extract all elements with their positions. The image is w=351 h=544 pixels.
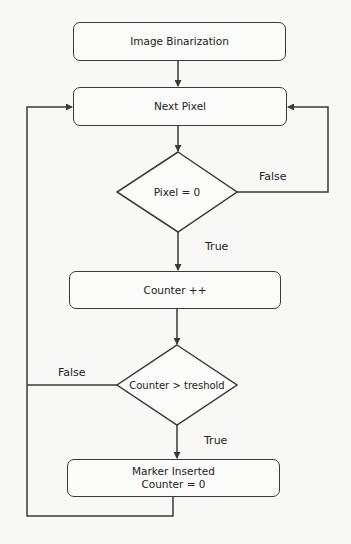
edge-label-pixel-false: False	[259, 170, 287, 183]
node-image-binarization: Image Binarization	[73, 22, 286, 61]
edge-label-pixel-true: True	[205, 240, 228, 253]
marker-line-1: Marker Inserted	[132, 465, 215, 478]
node-marker-inserted: Marker Inserted Counter = 0	[67, 459, 280, 497]
node-threshold-check-label: Counter > treshold	[117, 375, 237, 395]
edge-label-threshold-false: False	[58, 366, 86, 379]
node-pixel-check-label: Pixel = 0	[117, 182, 237, 202]
pixel-check-text: Pixel = 0	[154, 186, 200, 198]
pixel-false-text: False	[259, 170, 287, 183]
node-next-pixel: Next Pixel	[73, 87, 287, 126]
threshold-false-text: False	[58, 366, 86, 379]
marker-line-2: Counter = 0	[141, 478, 205, 491]
node-image-binarization-label: Image Binarization	[130, 35, 229, 48]
node-next-pixel-label: Next Pixel	[154, 100, 206, 113]
threshold-check-text: Counter > treshold	[129, 380, 224, 391]
node-counter-increment: Counter ++	[69, 271, 281, 309]
edge-label-threshold-true: True	[204, 434, 227, 447]
threshold-true-text: True	[204, 434, 227, 447]
pixel-true-text: True	[205, 240, 228, 253]
node-counter-increment-label: Counter ++	[144, 284, 207, 297]
edge-marker-loop-back	[27, 107, 173, 516]
